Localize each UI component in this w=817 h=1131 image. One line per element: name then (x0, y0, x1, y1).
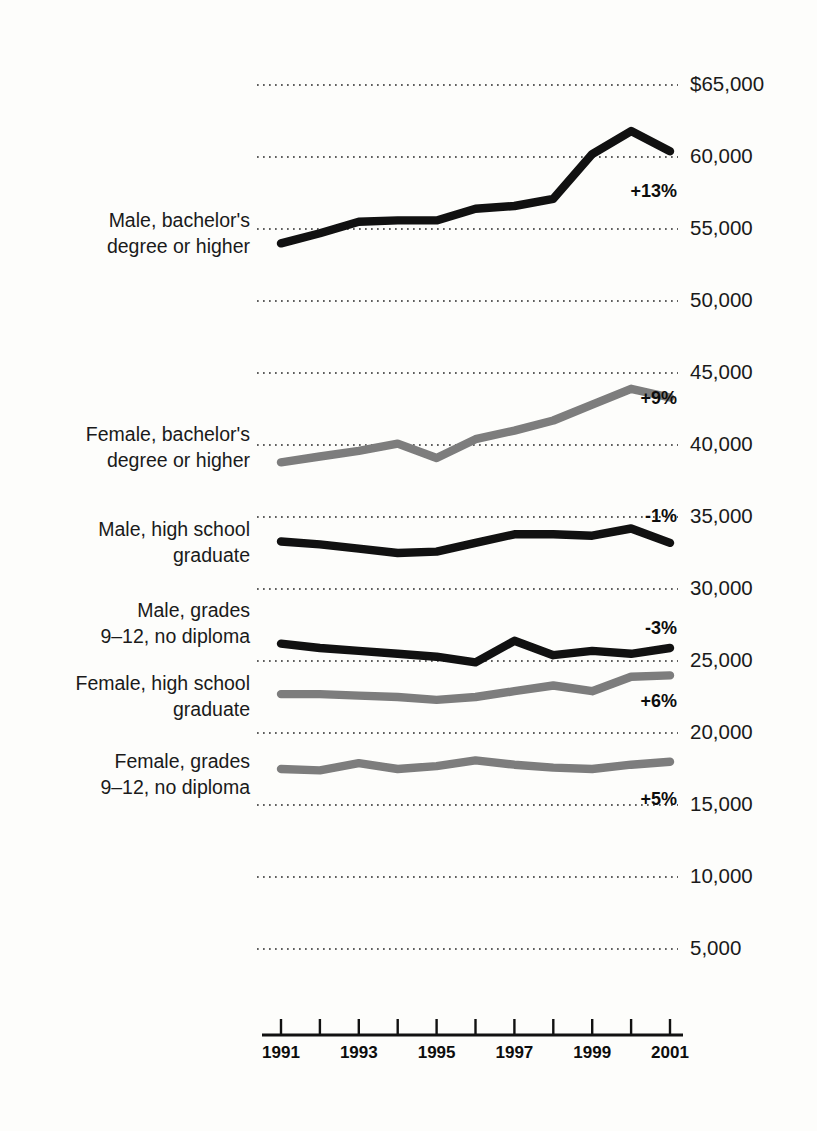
y-axis-tick-label: 15,000 (690, 792, 753, 815)
data-line-series-0 (281, 131, 670, 243)
series-label-line2: graduate (173, 698, 250, 720)
series-label-line2: 9–12, no diploma (100, 776, 250, 798)
series-label-line1: Male, bachelor's (109, 209, 251, 231)
percent-change-label-series-3: -3% (645, 618, 677, 638)
y-axis-tick-label: 30,000 (690, 576, 753, 599)
series-label-line1: Male, high school (98, 518, 250, 540)
percent-change-label-series-4: +6% (640, 691, 677, 711)
x-axis-group: 199119931995199719992001 (262, 1019, 689, 1062)
x-axis-tick-label: 1997 (495, 1043, 533, 1062)
percent-change-label-series-0: +13% (630, 181, 677, 201)
y-axis-tick-label: 60,000 (690, 144, 753, 167)
y-axis-tick-label: $65,000 (690, 72, 764, 95)
series-labels-group: Male, bachelor'sdegree or higherFemale, … (75, 209, 250, 798)
y-axis-tick-label: 55,000 (690, 216, 753, 239)
x-axis-tick-label: 2001 (651, 1043, 689, 1062)
data-line-series-4 (281, 675, 670, 700)
y-axis-tick-label: 25,000 (690, 648, 753, 671)
series-label-line1: Male, grades (137, 599, 250, 621)
y-axis-labels-group: $65,00060,00055,00050,00045,00040,00035,… (690, 72, 764, 959)
series-label-line1: Female, bachelor's (86, 423, 250, 445)
y-axis-tick-label: 35,000 (690, 504, 753, 527)
series-label-line1: Female, grades (115, 750, 251, 772)
percent-change-label-series-5: +5% (640, 789, 677, 809)
x-axis-tick-label: 1995 (418, 1043, 456, 1062)
y-axis-tick-label: 50,000 (690, 288, 753, 311)
percent-change-label-series-1: +9% (640, 388, 677, 408)
data-line-series-2 (281, 529, 670, 554)
series-label-line2: graduate (173, 544, 250, 566)
y-axis-tick-label: 40,000 (690, 432, 753, 455)
x-axis-tick-label: 1991 (262, 1043, 300, 1062)
series-label-line2: degree or higher (107, 235, 251, 257)
percent-change-labels-group: +13%+9%-1%-3%+6%+5% (630, 181, 677, 809)
x-axis-tick-label: 1999 (573, 1043, 611, 1062)
data-lines-group (281, 131, 670, 770)
percent-change-label-series-2: -1% (645, 506, 677, 526)
chart-container: $65,00060,00055,00050,00045,00040,00035,… (0, 0, 817, 1131)
y-axis-tick-label: 45,000 (690, 360, 753, 383)
x-axis-tick-label: 1993 (340, 1043, 378, 1062)
data-line-series-3 (281, 641, 670, 663)
series-label-line2: 9–12, no diploma (100, 625, 250, 647)
y-axis-tick-label: 10,000 (690, 864, 753, 887)
y-axis-tick-label: 20,000 (690, 720, 753, 743)
series-label-line2: degree or higher (107, 449, 251, 471)
y-axis-tick-label: 5,000 (690, 936, 741, 959)
series-label-line1: Female, high school (75, 672, 250, 694)
line-chart: $65,00060,00055,00050,00045,00040,00035,… (0, 0, 817, 1131)
data-line-series-1 (281, 389, 670, 463)
data-line-series-5 (281, 760, 670, 770)
